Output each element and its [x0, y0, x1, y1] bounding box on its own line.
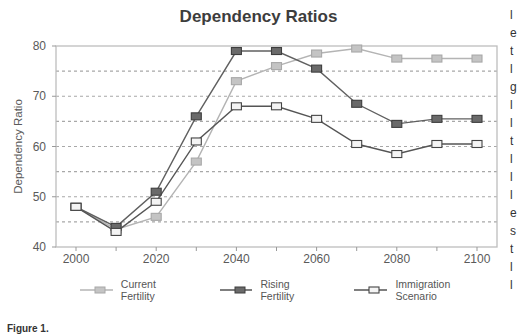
legend-label: Current Fertility [121, 278, 180, 302]
legend-item-immigration-scenario: Immigration Scenario [354, 278, 477, 302]
data-point-marker [272, 103, 282, 110]
data-point-marker [312, 115, 322, 122]
data-point-marker [231, 103, 241, 110]
legend-marker-hollow-square-icon [354, 285, 387, 295]
data-point-marker [272, 48, 282, 55]
legend-marker-dark-square-icon [220, 285, 253, 295]
series-line [76, 49, 477, 230]
data-point-marker [312, 50, 322, 57]
data-point-marker [352, 45, 362, 52]
data-point-marker [191, 138, 201, 145]
x-tick-label: 2080 [383, 252, 410, 266]
chart-legend: Current Fertility Rising Fertility Immig… [80, 278, 517, 302]
y-tick-label: 50 [33, 190, 47, 204]
data-point-marker [392, 120, 402, 127]
legend-label: Immigration Scenario [395, 278, 477, 302]
data-point-marker [191, 158, 201, 165]
legend-item-current-fertility: Current Fertility [80, 278, 180, 302]
x-tick-label: 2060 [303, 252, 330, 266]
data-point-marker [392, 55, 402, 62]
data-point-marker [472, 55, 482, 62]
x-tick-label: 2040 [223, 252, 250, 266]
series-line [76, 51, 477, 227]
legend-item-rising-fertility: Rising Fertility [220, 278, 315, 302]
figure-caption: Figure 1. [7, 323, 49, 334]
x-tick-label: 2100 [464, 252, 491, 266]
data-point-marker [231, 78, 241, 85]
data-point-marker [432, 115, 442, 122]
series-line [76, 106, 477, 232]
legend-label: Rising Fertility [260, 278, 314, 302]
data-point-marker [432, 55, 442, 62]
data-point-marker [71, 203, 81, 210]
data-point-marker [352, 100, 362, 107]
data-point-marker [151, 188, 161, 195]
data-point-marker [231, 48, 241, 55]
data-point-marker [392, 151, 402, 158]
data-point-marker [151, 213, 161, 220]
data-point-marker [312, 65, 322, 72]
y-tick-label: 40 [33, 240, 47, 254]
y-tick-label: 80 [33, 39, 47, 53]
data-point-marker [111, 228, 121, 235]
clipped-body-text: l e t l g l l t l l l e s t l l [510, 6, 517, 294]
legend-marker-light-square-icon [80, 285, 113, 295]
data-point-marker [352, 140, 362, 147]
x-tick-label: 2020 [143, 252, 170, 266]
data-point-marker [432, 140, 442, 147]
data-point-marker [191, 113, 201, 120]
data-point-marker [472, 115, 482, 122]
y-tick-label: 60 [33, 140, 47, 154]
y-tick-label: 70 [33, 89, 47, 103]
data-point-marker [472, 140, 482, 147]
x-tick-label: 2000 [63, 252, 90, 266]
data-point-marker [272, 63, 282, 70]
data-point-marker [151, 198, 161, 205]
y-axis-label: Dependency Ratio [12, 99, 24, 194]
